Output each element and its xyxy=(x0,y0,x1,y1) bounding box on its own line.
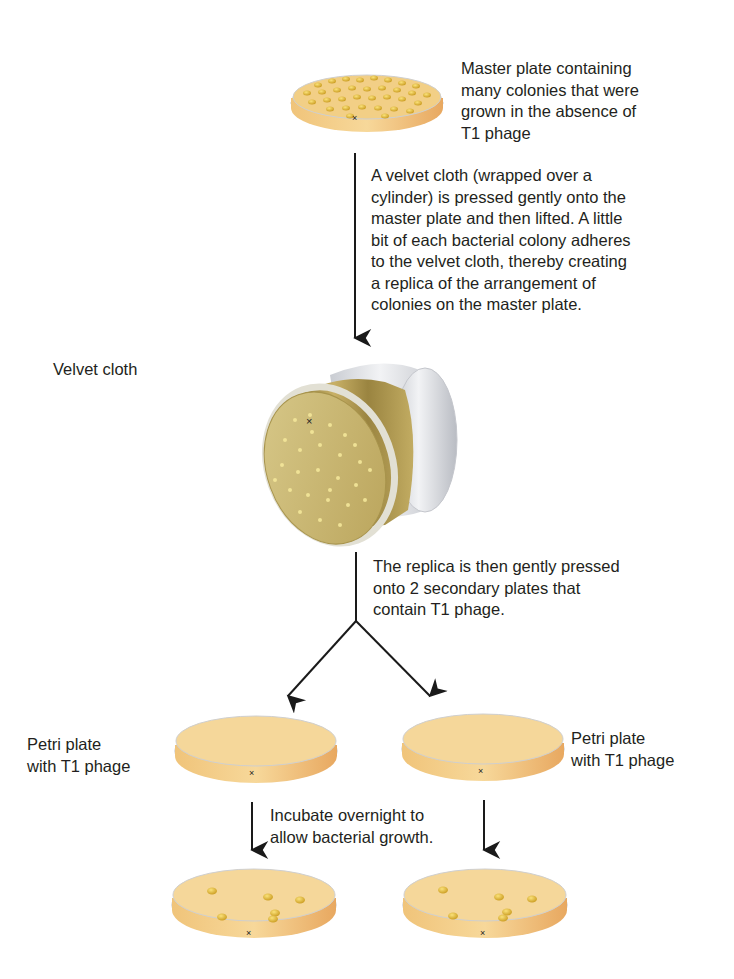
velvet-cylinder: × xyxy=(244,364,457,562)
svg-text:×: × xyxy=(478,766,483,776)
master-plate: × xyxy=(291,75,443,132)
secondary-plate-left-label: Petri plate with T1 phage xyxy=(27,734,130,777)
result-plate-left: × xyxy=(172,869,336,938)
master-plate-label: Master plate containing many colonies th… xyxy=(461,58,639,144)
orientation-mark-icon: × xyxy=(306,415,312,427)
split-arrow-right-icon xyxy=(356,621,430,696)
velvet-cloth-label: Velvet cloth xyxy=(53,359,137,381)
svg-text:×: × xyxy=(246,928,251,938)
svg-text:×: × xyxy=(480,928,485,938)
result-plate-right: × xyxy=(403,869,567,938)
velvet-transfer-caption: A velvet cloth (wrapped over a cylinder)… xyxy=(371,165,631,316)
split-arrow-left-icon xyxy=(288,621,356,696)
secondary-plate-right-label: Petri plate with T1 phage xyxy=(571,728,674,771)
orientation-mark-icon: × xyxy=(352,113,357,123)
secondary-plate-left: × xyxy=(175,716,337,783)
incubate-caption: Incubate overnight to allow bacterial gr… xyxy=(270,805,433,848)
svg-text:×: × xyxy=(249,768,254,778)
replica-press-caption: The replica is then gently pressed onto … xyxy=(373,556,620,621)
secondary-plate-right: × xyxy=(402,714,564,781)
